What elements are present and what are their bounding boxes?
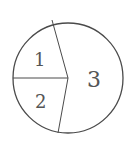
slice-label-3: 3 (87, 67, 101, 92)
slice-label-1: 1 (34, 49, 45, 70)
slice-label-2: 2 (35, 91, 46, 112)
pie-chart: 1 2 3 (0, 0, 130, 144)
